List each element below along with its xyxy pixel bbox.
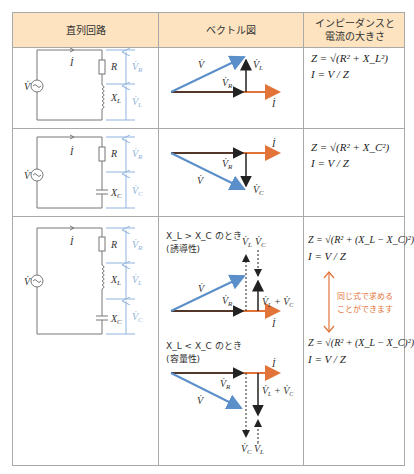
svg-text:V̇R: V̇R bbox=[222, 295, 233, 308]
condition-capacitive: X_L < X_C のとき (容量性) bbox=[166, 340, 242, 366]
formula-rlc-current-bottom: I = V / Z bbox=[308, 353, 346, 365]
svg-text:V̇C: V̇C bbox=[241, 443, 252, 456]
formula-rl-current: I = V / Z bbox=[311, 68, 349, 80]
svg-text:V̇R: V̇R bbox=[222, 158, 233, 171]
svg-text:İ: İ bbox=[271, 318, 276, 329]
svg-text:İ: İ bbox=[271, 138, 276, 149]
svg-text:V̇R: V̇R bbox=[132, 61, 143, 74]
svg-text:İ: İ bbox=[271, 98, 276, 109]
svg-text:V̇: V̇ bbox=[198, 283, 206, 294]
svg-text:V̇: V̇ bbox=[197, 395, 205, 406]
svg-text:İ: İ bbox=[69, 236, 74, 247]
condition-inductive-type: (誘導性) bbox=[166, 243, 242, 256]
svg-text:V̇R: V̇R bbox=[132, 148, 143, 161]
svg-text:V̇L + V̇C: V̇L + V̇C bbox=[262, 296, 294, 308]
svg-text:XL: XL bbox=[110, 92, 121, 105]
svg-text:V̇L: V̇L bbox=[132, 96, 142, 109]
svg-text:İ: İ bbox=[271, 358, 276, 369]
svg-text:V̇R: V̇R bbox=[132, 239, 143, 252]
svg-text:V̇C: V̇C bbox=[132, 185, 143, 198]
svg-text:V̇C: V̇C bbox=[253, 184, 264, 197]
circuit-rl bbox=[31, 48, 105, 120]
note-line2: ことができます bbox=[337, 303, 393, 316]
double-arrow-icon bbox=[324, 272, 334, 332]
svg-text:V̇R: V̇R bbox=[220, 378, 231, 391]
svg-text:V̇C: V̇C bbox=[255, 236, 266, 249]
condition-inductive-text: X_L > X_C のとき bbox=[166, 230, 242, 243]
formula-rlc-current-top: I = V / Z bbox=[308, 250, 346, 262]
formula-rc-current: I = V / Z bbox=[311, 157, 349, 169]
svg-text:İ: İ bbox=[69, 57, 74, 68]
svg-text:XL: XL bbox=[110, 274, 121, 287]
condition-inductive: X_L > X_C のとき (誘導性) bbox=[166, 230, 242, 256]
svg-text:V̇: V̇ bbox=[197, 175, 205, 186]
svg-text:R: R bbox=[110, 239, 117, 250]
note-line1: 同じ式で求める bbox=[337, 290, 393, 303]
condition-capacitive-type: (容量性) bbox=[166, 353, 242, 366]
formula-rc-impedance: Z = √(R² + X_C²) bbox=[311, 141, 389, 153]
formula-rlc-impedance-top: Z = √(R² + (X_L − X_C)²) bbox=[308, 234, 414, 245]
svg-text:V̇L: V̇L bbox=[254, 443, 264, 456]
svg-text:V̇L: V̇L bbox=[132, 274, 142, 287]
svg-text:R: R bbox=[110, 148, 117, 159]
formula-rl-impedance: Z = √(R² + X_L²) bbox=[311, 52, 388, 64]
svg-text:V̇C: V̇C bbox=[132, 311, 143, 324]
svg-text:V̇L: V̇L bbox=[242, 236, 252, 249]
svg-text:R: R bbox=[110, 61, 117, 72]
same-formula-note: 同じ式で求める ことができます bbox=[337, 290, 393, 316]
formula-rlc-impedance-bottom: Z = √(R² + (X_L − X_C)²) bbox=[308, 337, 414, 348]
svg-text:V̇L: V̇L bbox=[253, 59, 263, 72]
svg-text:V̇: V̇ bbox=[198, 59, 206, 70]
svg-text:V̇R: V̇R bbox=[222, 77, 233, 90]
svg-text:İ: İ bbox=[69, 146, 74, 157]
svg-text:XC: XC bbox=[110, 187, 122, 200]
condition-capacitive-text: X_L < X_C のとき bbox=[166, 340, 242, 353]
svg-text:XC: XC bbox=[110, 313, 122, 326]
svg-text:V̇L + V̇C: V̇L + V̇C bbox=[262, 385, 294, 397]
